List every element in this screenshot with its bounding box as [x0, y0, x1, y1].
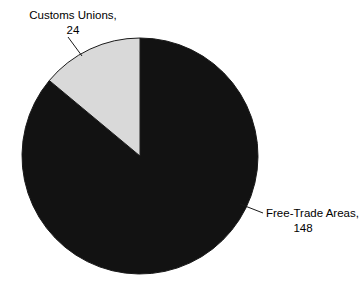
slice-label-customs-unions-value: 24	[67, 24, 80, 36]
pie-chart-figure: Customs Unions, 24 Free-Trade Areas, 148	[0, 0, 363, 285]
slice-label-free-trade-areas-value: 148	[293, 222, 312, 234]
slice-label-free-trade-areas-name: Free-Trade Areas,	[266, 207, 359, 219]
slice-label-customs-unions-name: Customs Unions,	[29, 9, 117, 21]
pie-chart-svg: Customs Unions, 24 Free-Trade Areas, 148	[0, 0, 363, 285]
